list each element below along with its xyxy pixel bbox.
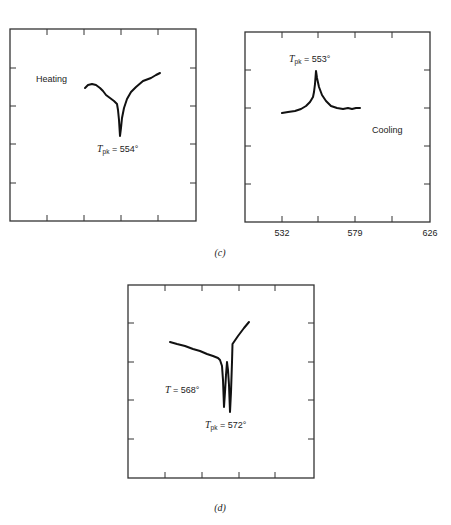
x-tick-label-532: 532 (274, 228, 289, 238)
heating-panel: Heating Tpk = 554° (10, 29, 196, 221)
heating-frame (10, 29, 196, 221)
panel-d-onset-annotation: T = 568° (165, 384, 200, 395)
x-tick-label-579: 579 (347, 228, 362, 238)
cooling-label: Cooling (372, 125, 403, 135)
heating-peak-annotation: Tpk = 554° (97, 143, 139, 156)
panel-d-curve (170, 322, 249, 412)
cooling-peak-annotation: Tpk = 553° (289, 53, 331, 66)
cooling-panel: Tpk = 553° Cooling 532 579 626 (245, 32, 438, 238)
panel-d: T = 568° Tpk = 572° (128, 285, 314, 478)
panel-d-ticks (128, 285, 314, 478)
panel-d-peak-annotation: Tpk = 572° (205, 419, 247, 432)
x-tick-label-626: 626 (422, 228, 437, 238)
caption-d: (d) (214, 502, 226, 514)
figure-canvas: Heating Tpk = 554° Tpk = 553° (0, 0, 451, 525)
heating-curve (85, 73, 160, 136)
cooling-curve (282, 71, 360, 113)
heating-label: Heating (36, 74, 67, 84)
heating-ticks (10, 29, 196, 221)
caption-c: (c) (214, 247, 226, 259)
panel-d-frame (128, 285, 314, 478)
